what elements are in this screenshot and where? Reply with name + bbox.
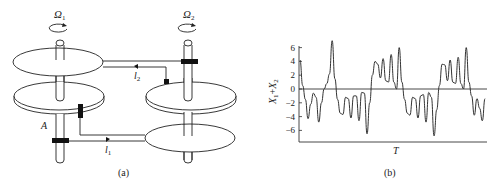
y-tick-label: −4 bbox=[285, 112, 295, 122]
caption-a: (a) bbox=[118, 167, 129, 179]
clamp-right-shaft bbox=[181, 59, 198, 64]
rotation-arrow-omega2-icon bbox=[178, 23, 196, 32]
clamp-right-disk bbox=[164, 79, 169, 84]
clamp-middle-left-disk bbox=[78, 104, 83, 118]
x-axis-label: T bbox=[393, 145, 400, 156]
l1-label: l1 bbox=[105, 144, 112, 157]
y-tick-label: 0 bbox=[291, 84, 296, 94]
y-tick-label: −2 bbox=[285, 98, 295, 108]
figure: Ω1 Ω2 A l2 l1 (a) 6420−2−4−6 X1+X2 T (b) bbox=[0, 0, 497, 191]
y-tick-label: 2 bbox=[291, 70, 296, 80]
panel-a-mechanism-diagram bbox=[13, 23, 236, 163]
clamp-left-shaft bbox=[52, 138, 69, 143]
middle-right-disk bbox=[146, 78, 236, 114]
band-l2 bbox=[103, 61, 192, 81]
l2-arrow-icon bbox=[134, 64, 138, 69]
point-a-label: A bbox=[40, 120, 48, 131]
waveform-line bbox=[300, 41, 485, 136]
middle-left-disk bbox=[14, 82, 104, 114]
omega2-label: Ω2 bbox=[183, 8, 195, 22]
rotation-arrow-omega1-icon bbox=[49, 23, 67, 32]
panel-b-chart: 6420−2−4−6 bbox=[285, 41, 487, 142]
upper-left-disk bbox=[13, 48, 103, 76]
l2-label: l2 bbox=[134, 70, 141, 83]
y-tick-label: 4 bbox=[291, 56, 296, 66]
y-axis-label: X1+X2 bbox=[267, 79, 280, 105]
caption-b: (b) bbox=[384, 167, 396, 179]
omega1-label: Ω1 bbox=[54, 8, 66, 22]
y-tick-label: −6 bbox=[285, 125, 295, 135]
y-tick-label: 6 bbox=[291, 43, 296, 53]
lower-right-disk bbox=[145, 124, 235, 152]
y-ticks: 6420−2−4−6 bbox=[285, 43, 302, 136]
